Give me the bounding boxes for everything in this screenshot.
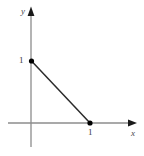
- plot-svg: [0, 0, 144, 156]
- x-axis-tick-label-1: 1: [88, 128, 93, 137]
- x-axis-arrowhead-icon: [128, 120, 137, 127]
- data-point-1-0: [87, 120, 92, 125]
- y-axis-tick-label-1: 1: [19, 56, 24, 65]
- x-axis-label: x: [131, 129, 135, 138]
- data-point-0-1: [29, 58, 34, 63]
- figure-canvas: y x 1 1: [0, 0, 144, 156]
- y-axis-arrowhead-icon: [28, 7, 35, 17]
- segment-line: [32, 61, 91, 123]
- y-axis-label: y: [21, 7, 25, 16]
